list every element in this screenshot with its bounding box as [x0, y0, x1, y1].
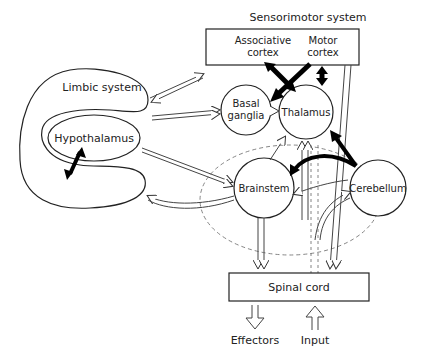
basal-ganglia-label-2: ganglia	[228, 110, 265, 121]
motor-cortex-label-2: cortex	[307, 47, 339, 58]
associative-cortex-label-1: Associative	[235, 35, 292, 46]
hypothalamus-label: Hypothalamus	[54, 132, 134, 145]
limbic-system-label: Limbic system	[62, 81, 141, 94]
input-label: Input	[301, 334, 330, 347]
io-arrows	[246, 305, 324, 330]
diagram-canvas: Sensorimotor system Associative cortex M…	[0, 0, 423, 348]
spinal-cord-label: Spinal cord	[268, 281, 329, 294]
sensorimotor-title: Sensorimotor system	[249, 11, 366, 24]
thalamus-label: Thalamus	[281, 107, 331, 118]
associative-cortex-label-2: cortex	[247, 47, 279, 58]
brainstem-label: Brainstem	[238, 183, 289, 194]
motor-cortex-label-1: Motor	[309, 35, 339, 46]
basal-ganglia-label-1: Basal	[232, 98, 259, 109]
dashed-input-lines	[311, 145, 318, 280]
cerebellum-label: Cerebellum	[349, 183, 406, 194]
effectors-label: Effectors	[231, 334, 280, 347]
